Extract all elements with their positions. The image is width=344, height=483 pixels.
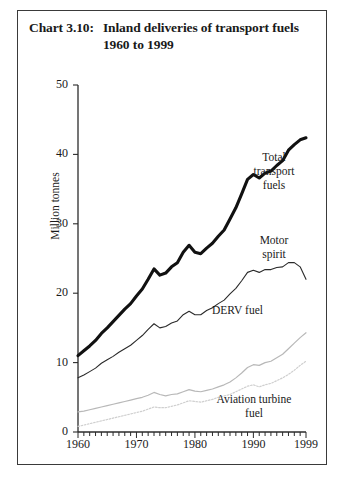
y-tick-label: 40 — [44, 146, 68, 161]
y-tick-label: 20 — [44, 285, 68, 300]
x-tick-label: 1990 — [233, 437, 273, 452]
x-tick-label: 1970 — [116, 437, 156, 452]
x-tick-label: 1960 — [58, 437, 98, 452]
y-tick-label: 30 — [44, 216, 68, 231]
x-tick-label: 1999 — [286, 437, 326, 452]
chart-figure: Chart 3.10: Inland deliveries of transpo… — [0, 0, 344, 483]
series-label-derv-fuel: DERV fuel — [212, 303, 290, 317]
series-label-total: Total transport fuels — [243, 150, 305, 192]
y-tick-label: 10 — [44, 355, 68, 370]
series-label-aviation-turbine-fuel: Aviation turbine fuel — [208, 392, 300, 420]
series-label-motor-spirit: Motor spirit — [243, 233, 305, 261]
x-tick-label: 1980 — [175, 437, 215, 452]
y-tick-label: 50 — [44, 77, 68, 92]
